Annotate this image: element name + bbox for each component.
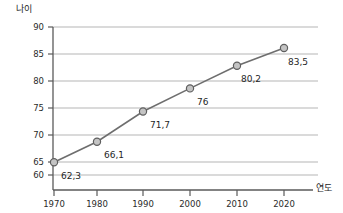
data-label-2000: 76 bbox=[197, 97, 208, 107]
y-tick-label-65: 65 bbox=[22, 157, 44, 167]
y-tick-label-85: 85 bbox=[22, 49, 44, 59]
data-point-2010 bbox=[233, 62, 240, 69]
data-point-2000 bbox=[186, 85, 193, 92]
data-label-1970: 62,3 bbox=[61, 171, 81, 181]
data-point-1990 bbox=[139, 108, 146, 115]
data-label-1990: 71,7 bbox=[150, 120, 170, 130]
x-axis-spine bbox=[53, 190, 313, 196]
y-tick-label-70: 70 bbox=[22, 130, 44, 140]
data-point-1980 bbox=[93, 138, 100, 145]
x-tick-label-2020: 2020 bbox=[267, 199, 301, 209]
x-tick-label-1980: 1980 bbox=[80, 199, 114, 209]
y-tick-label-60: 60 bbox=[22, 170, 44, 180]
data-label-2020: 83,5 bbox=[288, 57, 308, 67]
gridlines bbox=[53, 27, 318, 175]
y-tick-label-80: 80 bbox=[22, 76, 44, 86]
line-chart: 나이 연도 bbox=[0, 0, 343, 213]
data-point-2020 bbox=[280, 44, 287, 51]
data-label-1980: 66,1 bbox=[104, 150, 124, 160]
x-tick-label-2010: 2010 bbox=[220, 199, 254, 209]
x-tick-label-1990: 1990 bbox=[126, 199, 160, 209]
x-tick-label-1970: 1970 bbox=[37, 199, 71, 209]
x-tick-label-2000: 2000 bbox=[173, 199, 207, 209]
data-label-2010: 80,2 bbox=[241, 74, 261, 84]
chart-canvas bbox=[0, 0, 343, 213]
y-tick-label-75: 75 bbox=[22, 103, 44, 113]
y-tick-label-90: 90 bbox=[22, 22, 44, 32]
data-line bbox=[54, 48, 284, 162]
data-point-1970 bbox=[50, 159, 57, 166]
